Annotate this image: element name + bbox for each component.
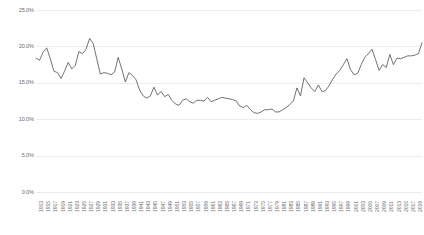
chart-container: 25.0%20.0%15.0%10.0%5.0%0.0% 19131915191… [0, 0, 424, 235]
series-line-top-1-percent [36, 38, 422, 113]
line-chart-plot [0, 0, 424, 235]
